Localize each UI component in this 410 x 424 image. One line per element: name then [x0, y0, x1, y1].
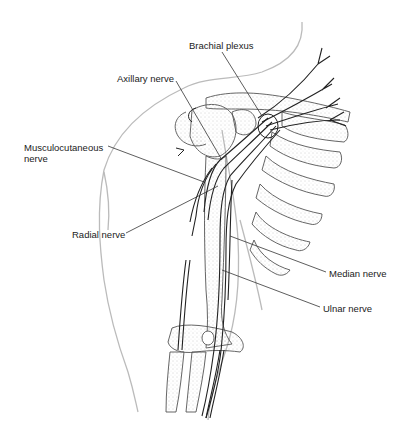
label-median-nerve: Median nerve	[329, 268, 387, 279]
label-ulnar-nerve: Ulnar nerve	[323, 303, 372, 314]
anatomy-illustration	[0, 0, 410, 424]
label-musculocutaneous-nerve-line2: nerve	[24, 153, 48, 164]
elbow-bones	[166, 325, 243, 412]
label-musculocutaneous-nerve-line1: Musculocutaneous	[24, 142, 103, 153]
label-axillary-nerve: Axillary nerve	[117, 73, 174, 84]
label-brachial-plexus: Brachial plexus	[189, 40, 253, 51]
label-radial-nerve: Radial nerve	[72, 229, 125, 240]
ribcage	[250, 112, 348, 275]
arm-nerves-diagram: Brachial plexus Axillary nerve Musculocu…	[0, 0, 410, 424]
